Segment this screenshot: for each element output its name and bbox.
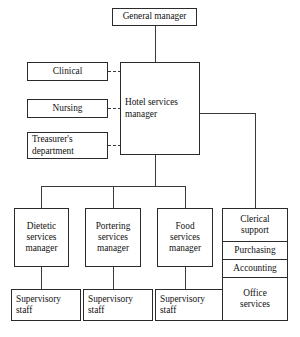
node-clerical-support-label: Clerical support xyxy=(240,214,269,236)
org-chart-diagram: General manager Hotel services manager C… xyxy=(0,0,300,337)
node-supervisory-staff-portering[interactable]: Supervisory staff xyxy=(83,289,153,321)
connector-right-to-clerical xyxy=(255,113,256,208)
connector-gm-to-hsm xyxy=(155,25,156,62)
node-treasurers-department-label: Treasurer's department xyxy=(28,134,107,156)
connector-bus-to-dietetic xyxy=(41,186,42,208)
node-nursing[interactable]: Nursing xyxy=(27,99,108,118)
node-purchasing-label: Purchasing xyxy=(234,245,275,256)
connector-dietetic-to-supervisory xyxy=(41,267,42,289)
node-supervisory-staff-dietetic-label: Supervisory staff xyxy=(12,294,80,316)
node-general-manager-label: General manager xyxy=(113,11,196,22)
node-office-services[interactable]: Office services xyxy=(223,278,287,320)
node-treasurers-department[interactable]: Treasurer's department xyxy=(27,132,108,159)
node-hotel-services-manager[interactable]: Hotel services manager xyxy=(120,62,200,155)
node-food-services-manager[interactable]: Food services manager xyxy=(157,208,213,267)
node-portering-services-manager[interactable]: Portering services manager xyxy=(85,208,141,267)
node-accounting[interactable]: Accounting xyxy=(223,260,287,278)
node-supervisory-staff-food-label: Supervisory staff xyxy=(156,294,224,316)
node-clerical-support-stack[interactable]: Clerical support Purchasing Accounting O… xyxy=(222,208,288,321)
node-dietetic-services-manager[interactable]: Dietetic services manager xyxy=(14,208,69,267)
node-supervisory-staff-food[interactable]: Supervisory staff xyxy=(155,289,225,321)
node-hotel-services-manager-label: Hotel services manager xyxy=(121,97,199,119)
node-food-services-manager-label: Food services manager xyxy=(158,221,212,255)
node-supervisory-staff-dietetic[interactable]: Supervisory staff xyxy=(11,289,81,321)
node-dietetic-services-manager-label: Dietetic services manager xyxy=(15,221,68,255)
node-clerical-support[interactable]: Clerical support xyxy=(223,209,287,242)
node-portering-services-manager-label: Portering services manager xyxy=(86,221,140,255)
node-general-manager[interactable]: General manager xyxy=(112,8,197,26)
connector-hsm-right xyxy=(200,113,256,114)
node-accounting-label: Accounting xyxy=(233,263,276,274)
node-clinical-label: Clinical xyxy=(28,66,107,77)
connector-portering-to-supervisory xyxy=(113,267,114,289)
connector-bus-to-food xyxy=(185,186,186,208)
node-clinical[interactable]: Clinical xyxy=(27,62,108,81)
node-office-services-label: Office services xyxy=(240,288,270,310)
connector-hsm-down xyxy=(155,155,156,186)
connector-food-to-supervisory xyxy=(185,267,186,289)
node-supervisory-staff-portering-label: Supervisory staff xyxy=(84,294,152,316)
node-nursing-label: Nursing xyxy=(28,103,107,114)
connector-bus-to-portering xyxy=(113,186,114,208)
node-purchasing[interactable]: Purchasing xyxy=(223,242,287,260)
